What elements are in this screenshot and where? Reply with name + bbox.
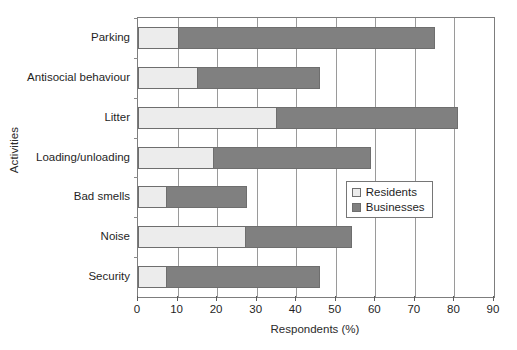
x-axis-tick xyxy=(256,296,257,301)
x-axis-title: Respondents (%) xyxy=(137,323,493,335)
x-axis-tick xyxy=(453,296,454,301)
y-axis-tick-label: Parking xyxy=(26,31,130,43)
x-axis-tick-label: 50 xyxy=(328,303,341,315)
x-axis-tick-label: 20 xyxy=(210,303,223,315)
y-axis-tick xyxy=(134,58,138,59)
y-axis-tick-label: Security xyxy=(26,270,130,282)
y-axis-tick-label: Noise xyxy=(26,230,130,242)
bar-segment-residents xyxy=(138,186,166,208)
bar-row xyxy=(138,27,435,49)
y-axis-tick xyxy=(134,98,138,99)
x-axis-tick xyxy=(374,296,375,301)
x-axis-tick-label: 0 xyxy=(134,303,140,315)
x-axis-tick-label: 10 xyxy=(170,303,183,315)
bars-layer xyxy=(138,18,494,297)
bar-segment-residents xyxy=(138,226,245,248)
y-axis-tick-label: Litter xyxy=(26,111,130,123)
legend-swatch-residents xyxy=(352,188,361,197)
x-axis-tick-label: 30 xyxy=(249,303,262,315)
bar-segment-businesses xyxy=(166,186,247,208)
x-axis-tick xyxy=(335,296,336,301)
y-axis-tick-labels: ParkingAntisocial behaviourLitterLoading… xyxy=(26,17,134,296)
y-axis-tick xyxy=(134,18,138,19)
x-axis-tick-label: 80 xyxy=(447,303,460,315)
legend-entry: Residents xyxy=(352,186,425,198)
x-axis-tick-label: 90 xyxy=(487,303,500,315)
bar-segment-businesses xyxy=(166,266,320,288)
y-axis-tick-label: Bad smells xyxy=(26,190,130,202)
x-axis-tick xyxy=(414,296,415,301)
x-axis-tick xyxy=(493,296,494,301)
x-axis-tick xyxy=(177,296,178,301)
bar-segment-residents xyxy=(138,147,213,169)
y-axis-tick-label: Antisocial behaviour xyxy=(26,71,130,83)
bar-row xyxy=(138,67,320,89)
bar-segment-residents xyxy=(138,266,166,288)
y-axis-title-text: Activities xyxy=(8,127,20,173)
x-axis-tick-label: 40 xyxy=(289,303,302,315)
legend-label: Businesses xyxy=(366,201,425,213)
bar-row xyxy=(138,226,352,248)
y-axis-tick xyxy=(134,257,138,258)
legend-swatch-businesses xyxy=(352,203,361,212)
y-axis-tick xyxy=(134,138,138,139)
bar-segment-businesses xyxy=(276,107,458,129)
x-axis-tick-label: 60 xyxy=(368,303,381,315)
y-axis-tick xyxy=(134,217,138,218)
bar-segment-businesses xyxy=(197,67,320,89)
bar-segment-residents xyxy=(138,67,197,89)
bar-segment-businesses xyxy=(245,226,352,248)
y-axis-tick-label: Loading/unloading xyxy=(26,151,130,163)
legend-label: Residents xyxy=(366,186,417,198)
bar-segment-residents xyxy=(138,107,276,129)
bar-row xyxy=(138,147,371,169)
y-axis-tick xyxy=(134,177,138,178)
x-axis-tick xyxy=(137,296,138,301)
bar-row xyxy=(138,266,320,288)
plot-area: ResidentsBusinesses xyxy=(137,17,495,298)
stacked-bar-chart: Activities ParkingAntisocial behaviourLi… xyxy=(0,0,517,350)
x-axis-tick xyxy=(295,296,296,301)
bar-row xyxy=(138,186,247,208)
bar-segment-businesses xyxy=(213,147,371,169)
bar-segment-businesses xyxy=(178,27,435,49)
chart-legend: ResidentsBusinesses xyxy=(346,181,433,218)
legend-entry: Businesses xyxy=(352,201,425,213)
y-axis-title: Activities xyxy=(2,0,26,300)
bar-segment-residents xyxy=(138,27,178,49)
x-axis-tick-label: 70 xyxy=(407,303,420,315)
bar-row xyxy=(138,107,458,129)
x-axis-tick xyxy=(216,296,217,301)
